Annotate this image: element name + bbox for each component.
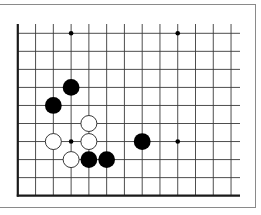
black-stone-icon [80,151,97,168]
star-point-icon [69,139,74,144]
white-stone-icon [45,134,61,150]
black-stone-icon [134,133,151,150]
go-board [0,0,261,215]
black-stone-icon [98,151,115,168]
black-stone-icon [63,79,80,96]
white-stone-icon [81,116,97,132]
star-point-icon [69,31,74,36]
black-stone-icon [45,97,62,114]
white-stone-icon [81,134,97,150]
white-stone-icon [63,152,79,168]
star-point-icon [175,31,180,36]
star-point-icon [175,139,180,144]
